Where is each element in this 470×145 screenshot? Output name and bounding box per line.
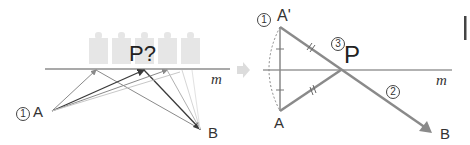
step-marker-1-left: 1 xyxy=(16,104,30,121)
question-label: P? xyxy=(129,43,156,65)
building-icon xyxy=(89,32,108,64)
point-a-label-right: A xyxy=(274,115,284,130)
building-icon xyxy=(181,32,200,64)
edge-bar xyxy=(464,16,467,40)
point-a-prime-label: A' xyxy=(277,8,291,24)
step-marker-3: 3 xyxy=(331,34,345,51)
step-marker-1-right: 1 xyxy=(257,10,271,27)
point-b-label-left: B xyxy=(208,125,218,140)
line-m-label-left: m xyxy=(211,72,222,87)
segment-a-p xyxy=(280,70,341,111)
line-m-label-right: m xyxy=(436,73,447,88)
building-icon xyxy=(158,32,177,64)
right-arrow-icon xyxy=(237,62,250,78)
diagram-canvas xyxy=(0,0,470,145)
compass-arc xyxy=(269,27,280,111)
arrowhead-b xyxy=(419,121,432,133)
point-p-label: P xyxy=(344,43,360,67)
candidate-paths xyxy=(52,70,200,129)
point-b-label-right: B xyxy=(440,126,450,141)
point-a-label-left: A xyxy=(33,104,43,119)
step-marker-2: 2 xyxy=(386,82,400,99)
